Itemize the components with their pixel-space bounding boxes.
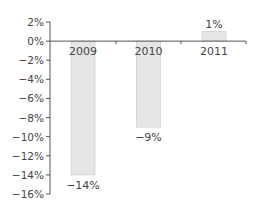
bar-2011 bbox=[202, 32, 226, 42]
bar-2009 bbox=[71, 41, 95, 175]
y-tick-label: −10% bbox=[12, 131, 44, 143]
category-label: 2010 bbox=[135, 45, 163, 58]
value-label: −14% bbox=[66, 179, 100, 192]
y-tick-label: −2% bbox=[19, 54, 44, 66]
y-tick-label: −14% bbox=[12, 169, 44, 181]
bar-chart: 2%0%−2%−4%−6%−8%−10%−12%−14%−16% −14%200… bbox=[0, 0, 266, 213]
y-tick-label: −8% bbox=[19, 112, 44, 124]
y-tick-label: 0% bbox=[27, 35, 44, 47]
value-label: −9% bbox=[135, 131, 162, 144]
y-tick-label: −16% bbox=[12, 188, 44, 200]
category-label: 2011 bbox=[200, 45, 228, 58]
y-tick-label: 2% bbox=[27, 16, 44, 28]
y-tick-label: −6% bbox=[19, 92, 44, 104]
y-axis: 2%0%−2%−4%−6%−8%−10%−12%−14%−16% bbox=[12, 16, 50, 200]
y-tick-label: −4% bbox=[19, 73, 44, 85]
y-tick-label: −12% bbox=[12, 150, 44, 162]
category-label: 2009 bbox=[69, 45, 97, 58]
value-label: 1% bbox=[205, 18, 222, 31]
